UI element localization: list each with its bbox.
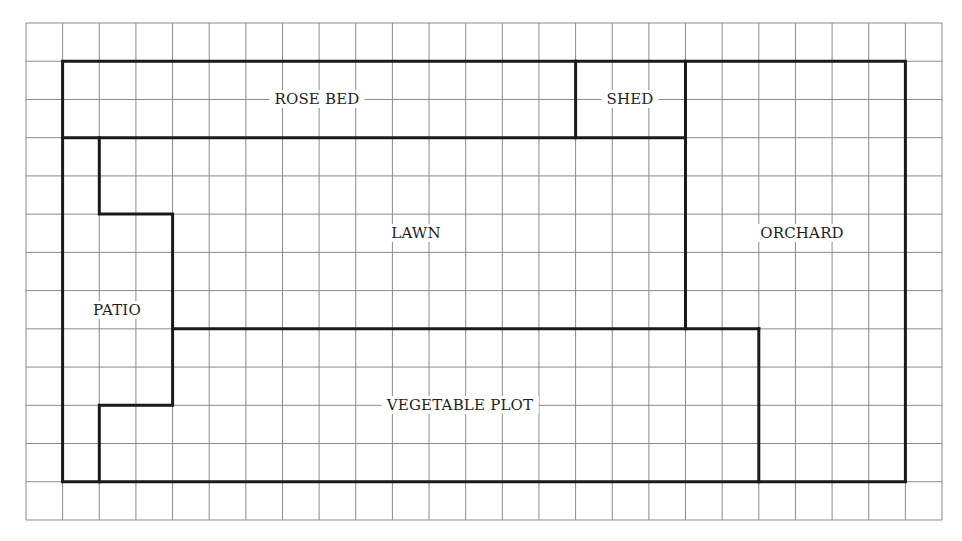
garden-plan [0, 0, 962, 541]
label-rose-bed: ROSE BED [269, 90, 364, 108]
grid-lines [26, 23, 942, 520]
region-boundaries [63, 61, 906, 482]
label-vegetable-plot: VEGETABLE PLOT [382, 396, 539, 414]
outer-boundary [63, 61, 906, 482]
label-lawn: LAWN [386, 224, 446, 242]
label-shed: SHED [601, 90, 658, 108]
label-orchard: ORCHARD [755, 224, 849, 242]
label-patio: PATIO [88, 301, 146, 319]
